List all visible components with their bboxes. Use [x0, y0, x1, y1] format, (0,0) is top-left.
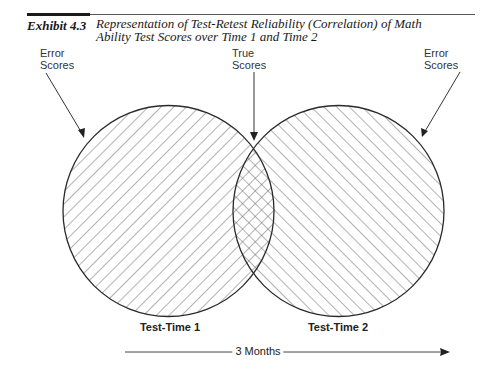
timeline-label: 3 Months [232, 345, 283, 357]
timeline-arrow [125, 348, 450, 356]
arrow-true-scores [250, 72, 258, 141]
arrow-error-scores-right [421, 72, 460, 137]
label-test-time-2: Test-Time 2 [308, 321, 368, 333]
label-test-time-1: Test-Time 1 [140, 321, 200, 333]
venn-diagram [0, 0, 490, 372]
arrow-error-scores-left [46, 73, 85, 138]
